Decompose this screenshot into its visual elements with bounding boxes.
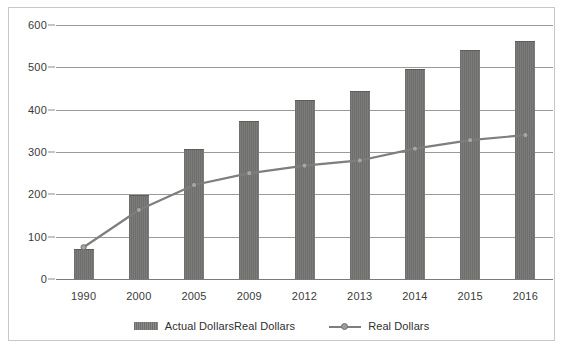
x-tick-label-2015: 2015	[458, 290, 483, 302]
y-tick-label-500: 500	[28, 61, 47, 73]
y-tick-mark-600	[48, 25, 55, 26]
bar-swatch-icon	[134, 322, 158, 330]
plot-area: 0100200300400500600 19902000200520092012…	[56, 25, 553, 279]
x-tick-label-2013: 2013	[347, 290, 372, 302]
y-tick-mark-300	[48, 152, 55, 153]
line-marker-swatch-icon	[329, 322, 361, 331]
y-tick-mark-200	[48, 194, 55, 195]
x-tick-label-2014: 2014	[402, 290, 427, 302]
y-tick-label-0: 0	[41, 273, 47, 285]
y-tick-mark-0	[48, 279, 55, 280]
y-tick-label-600: 600	[28, 19, 47, 31]
x-tick-label-2000: 2000	[126, 290, 151, 302]
chart-legend: Actual DollarsReal Dollars Real Dollars	[9, 320, 554, 332]
x-tick-label-2005: 2005	[181, 290, 206, 302]
legend-label-actual-dollars: Actual DollarsReal Dollars	[165, 320, 295, 332]
x-tick-label-2016: 2016	[513, 290, 538, 302]
x-tick-label-2009: 2009	[237, 290, 262, 302]
x-tick-label-2012: 2012	[292, 290, 317, 302]
y-tick-mark-500	[48, 67, 55, 68]
legend-item-real-dollars[interactable]: Real Dollars	[329, 320, 429, 332]
gridline-0	[56, 279, 553, 280]
y-tick-label-400: 400	[28, 104, 47, 116]
chart-frame: 0100200300400500600 19902000200520092012…	[8, 7, 555, 341]
y-tick-label-300: 300	[28, 146, 47, 158]
x-tick-label-1990: 1990	[71, 290, 96, 302]
legend-label-real-dollars: Real Dollars	[368, 320, 429, 332]
y-tick-mark-100	[48, 236, 55, 237]
y-tick-mark-400	[48, 109, 55, 110]
legend-item-actual-dollars[interactable]: Actual DollarsReal Dollars	[134, 320, 295, 332]
x-axis-labels: 199020002005200920122013201420152016	[56, 25, 553, 279]
y-tick-label-100: 100	[28, 231, 47, 243]
y-tick-label-200: 200	[28, 188, 47, 200]
